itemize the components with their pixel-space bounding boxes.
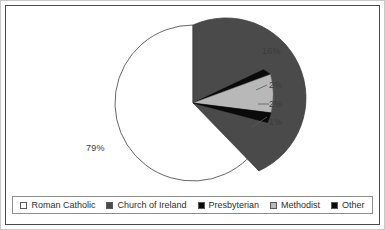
legend-label-other: Other (342, 201, 365, 210)
legend-item-other[interactable]: Other (331, 201, 365, 210)
slice-label-other: 1% (269, 117, 282, 127)
slice-label-methodist: 2% (269, 99, 282, 109)
legend-item-church-of-ireland[interactable]: Church of Ireland (106, 201, 186, 210)
pie-chart-graphic (5, 5, 380, 225)
pie-chart-figure: 16% 2% 2% 1% 79% Roman Catholic Church o… (0, 0, 385, 230)
legend-item-methodist[interactable]: Methodist (270, 201, 320, 210)
legend-swatch-church-of-ireland (106, 202, 113, 209)
legend-label-presbyterian: Presbyterian (209, 201, 260, 210)
legend-item-presbyterian[interactable]: Presbyterian (198, 201, 260, 210)
legend-label-roman-catholic: Roman Catholic (31, 201, 95, 210)
legend-label-methodist: Methodist (281, 201, 320, 210)
slice-label-presbyterian: 2% (269, 80, 282, 90)
legend-swatch-methodist (270, 202, 277, 209)
chart-legend: Roman Catholic Church of Ireland Presbyt… (12, 196, 373, 214)
slice-label-church-of-ireland: 16% (262, 46, 281, 56)
legend-swatch-roman-catholic (20, 202, 27, 209)
legend-item-roman-catholic[interactable]: Roman Catholic (20, 201, 95, 210)
slice-label-roman-catholic: 79% (86, 143, 105, 153)
legend-label-church-of-ireland: Church of Ireland (117, 201, 186, 210)
legend-swatch-presbyterian (198, 202, 205, 209)
legend-swatch-other (331, 202, 338, 209)
